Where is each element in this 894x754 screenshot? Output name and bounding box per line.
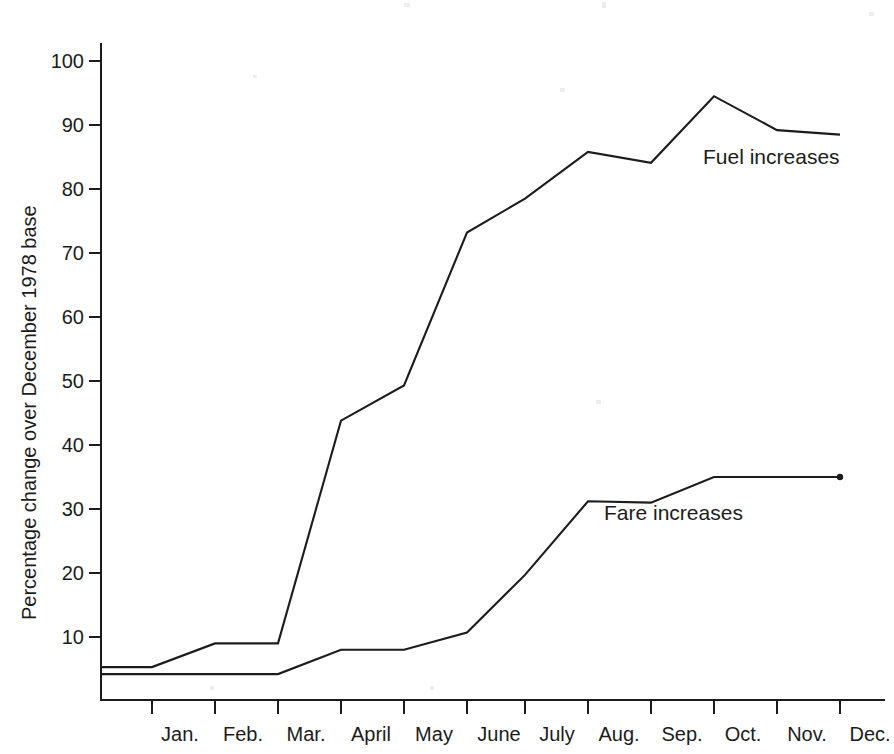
scan-artifacts	[210, 2, 874, 690]
x-tick-label-sep: Sep.	[661, 723, 702, 745]
x-tick-label-apr: April	[351, 723, 391, 745]
x-axis-ticks	[152, 700, 840, 714]
x-tick-label-may: May	[415, 723, 453, 745]
line-chart-figure: 100 90 80 70 60 50 40 30 20 10 Percentag…	[0, 0, 894, 754]
x-tick-label-mar: Mar.	[287, 723, 326, 745]
chart-page: 100 90 80 70 60 50 40 30 20 10 Percentag…	[0, 0, 894, 754]
fuel-increases-label: Fuel increases	[703, 145, 840, 168]
x-tick-label-nov: Nov.	[787, 723, 827, 745]
x-tick-label-oct: Oct.	[725, 723, 762, 745]
y-axis-title: Percentage change over December 1978 bas…	[18, 205, 40, 620]
y-tick-label-100: 100	[51, 50, 84, 72]
y-tick-label-50: 50	[62, 370, 84, 392]
x-tick-label-dec: Dec.	[849, 723, 890, 745]
y-tick-label-60: 60	[62, 306, 84, 328]
y-tick-label-90: 90	[62, 114, 84, 136]
series-endpoint-dot	[837, 474, 843, 480]
y-tick-label-70: 70	[62, 242, 84, 264]
fare-increases-label: Fare increases	[604, 501, 743, 524]
y-tick-label-10: 10	[62, 626, 84, 648]
y-tick-label-80: 80	[62, 178, 84, 200]
series-line-fuel-increases	[101, 96, 840, 667]
y-tick-label-40: 40	[62, 434, 84, 456]
x-tick-label-jun: June	[477, 723, 520, 745]
x-tick-label-jan: Jan.	[161, 723, 199, 745]
chart-canvas: 100 90 80 70 60 50 40 30 20 10 Percentag…	[0, 0, 894, 754]
x-tick-label-jul: July	[539, 723, 575, 745]
y-tick-label-20: 20	[62, 562, 84, 584]
x-tick-label-aug: Aug.	[598, 723, 639, 745]
x-tick-label-feb: Feb.	[223, 723, 263, 745]
y-axis-ticks	[89, 61, 101, 637]
y-tick-label-30: 30	[62, 498, 84, 520]
